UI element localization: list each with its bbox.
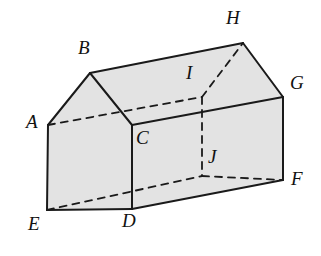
vertex-label-A: A xyxy=(26,112,38,131)
vertex-label-H: H xyxy=(226,8,240,27)
vertex-label-J: J xyxy=(208,147,216,166)
vertex-label-D: D xyxy=(122,211,136,230)
vertex-label-B: B xyxy=(78,38,90,57)
edge-E-D xyxy=(47,209,132,210)
vertex-label-E: E xyxy=(28,214,40,233)
vertex-label-F: F xyxy=(291,169,303,188)
figure-canvas: ABCDEFGHIJ xyxy=(0,0,321,256)
vertex-label-I: I xyxy=(186,63,192,82)
vertex-label-G: G xyxy=(290,73,304,92)
vertex-label-C: C xyxy=(136,128,149,147)
prism-diagram xyxy=(0,0,321,256)
edge-A-E xyxy=(47,125,48,210)
